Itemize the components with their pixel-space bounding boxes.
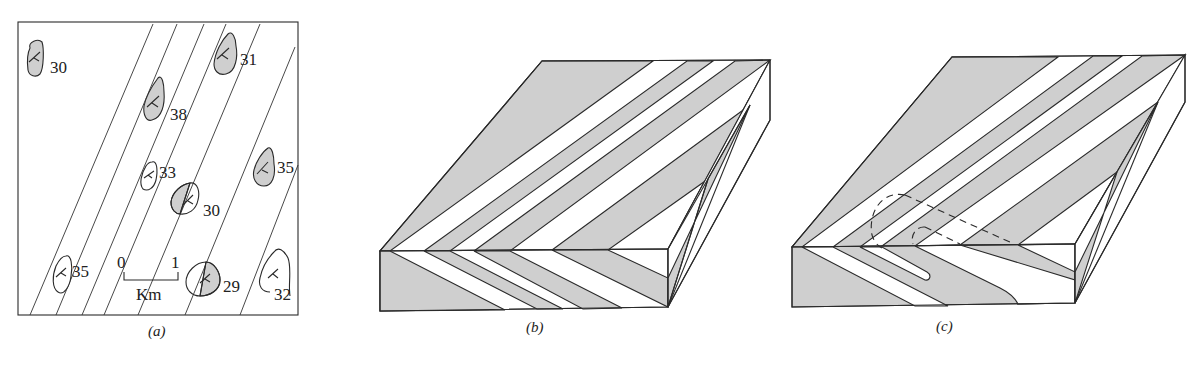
dip-label: 35 — [277, 158, 294, 177]
dip-label: 38 — [170, 105, 187, 124]
dip-label: 30 — [203, 201, 220, 220]
dip-label: 29 — [223, 277, 240, 296]
dip-label: 30 — [50, 58, 67, 77]
caption-c: (c) — [936, 318, 953, 335]
caption-a: (a) — [148, 323, 166, 340]
scale-end-label: 1 — [171, 253, 180, 272]
outcrop-7: 35 — [53, 256, 89, 293]
dip-label: 31 — [240, 50, 257, 69]
scale-start-label: 0 — [117, 253, 126, 272]
caption-b: (b) — [526, 319, 544, 336]
outcrop-9: 32 — [259, 249, 291, 304]
dip-label: 33 — [159, 163, 176, 182]
panel-b-block: (b) — [380, 60, 770, 336]
panel-c-block: (c) — [792, 55, 1185, 335]
scale-unit-label: Km — [136, 285, 162, 304]
figure-canvas: 30 31 38 33 35 30 — [0, 0, 1204, 367]
panel-a-map: 30 31 38 33 35 30 — [18, 22, 298, 340]
outcrop-2: 31 — [214, 33, 257, 74]
outcrop-8: 29 — [186, 262, 240, 296]
outcrop-6: 30 — [171, 183, 220, 220]
outcrop-1: 30 — [27, 40, 67, 77]
dip-label: 35 — [72, 262, 89, 281]
dip-label: 32 — [274, 285, 291, 304]
outcrop-5: 35 — [253, 148, 294, 186]
